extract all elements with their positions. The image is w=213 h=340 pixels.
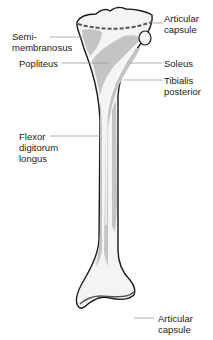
- label-articular-capsule-top: Articular capsule: [164, 13, 199, 35]
- label-soleus: Soleus: [164, 58, 193, 69]
- label-flexor-digitorum-longus: Flexor digitorum longus: [19, 131, 58, 164]
- fibular-facet: [139, 31, 151, 45]
- tibia-diagram: Articular capsule Semi- membranosus Popl…: [0, 0, 213, 340]
- label-tibialis-posterior: Tibialis posterior: [164, 75, 201, 97]
- label-semimembranosus: Semi- membranosus: [12, 31, 72, 53]
- label-articular-capsule-bottom: Articular capsule: [158, 313, 193, 335]
- label-popliteus: Popliteus: [19, 58, 58, 69]
